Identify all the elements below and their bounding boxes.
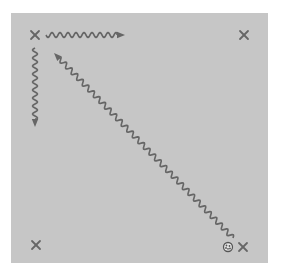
ball-icon [224,243,233,252]
drill-diagram: top-left positiontop-right positionbotto… [0,0,281,276]
